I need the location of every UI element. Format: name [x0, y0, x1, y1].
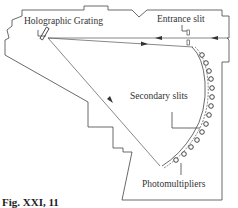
entrance-slit-label: Entrance slit	[157, 14, 205, 24]
secondary-slits-arc	[164, 47, 208, 168]
arrow-left-icon	[211, 36, 218, 40]
grating-element	[38, 27, 49, 40]
rowland-circle	[162, 47, 205, 166]
polychromator-diagram: Holographic Grating Entrance slit Second…	[0, 0, 238, 208]
grating-label: Holographic Grating	[24, 16, 103, 26]
photomultipliers-label: Photomultipliers	[142, 179, 206, 189]
arrow-down-right-icon	[107, 96, 113, 103]
arrow-right-icon	[141, 42, 148, 47]
diffracted-ray-upper	[48, 38, 193, 47]
secondary-slits-label: Secondary slits	[130, 91, 188, 101]
entrance-slit	[182, 25, 190, 45]
arrow-left-icon	[155, 36, 162, 40]
photomultiplier-array	[174, 53, 215, 163]
figure-caption: Fig. XXI, 11	[2, 196, 59, 208]
diffracted-ray-lower	[48, 38, 160, 166]
housing-outline	[5, 6, 229, 200]
